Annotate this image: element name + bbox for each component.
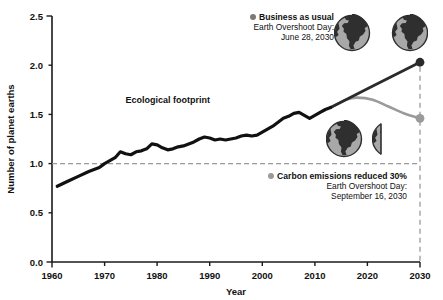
x-tick-label-2010: 2010	[304, 270, 325, 281]
globe-group-two-earths	[334, 14, 428, 56]
x-tick-label-2000: 2000	[252, 270, 273, 281]
x-tick-marks	[52, 262, 420, 268]
legend-marker-dot-business-as-usual	[250, 14, 256, 20]
x-axis-title: Year	[226, 286, 246, 297]
y-tick-label-2-0: 2.0	[30, 60, 43, 71]
y-tick-label-2-5: 2.5	[30, 11, 44, 22]
legend-business-as-usual[interactable]: Business as usual Earth Overshoot Day: J…	[186, 13, 334, 42]
x-tick-label-2030: 2030	[409, 270, 430, 281]
x-tick-label-1990: 1990	[199, 270, 220, 281]
x-tick-label-2020: 2020	[357, 270, 378, 281]
legend-carbon-emissions-reduced[interactable]: Carbon emissions reduced 30% Earth Overs…	[180, 172, 407, 201]
half-globe-icon	[373, 120, 408, 157]
chart-container: 2.5 2.0 1.5 1.0 0.5 0.0 1960 1970 1980 1…	[0, 0, 443, 300]
y-tick-label-1-0: 1.0	[30, 158, 43, 169]
y-tick-label-0-5: 0.5	[30, 207, 44, 218]
endpoint-marker-carbon-reduced	[416, 114, 425, 123]
globe-icon	[335, 14, 370, 50]
x-tick-label-1960: 1960	[41, 270, 62, 281]
y-tick-marks	[47, 16, 53, 262]
x-tick-label-1980: 1980	[147, 270, 168, 281]
globe-group-one-and-half-earths	[326, 120, 408, 162]
legend-business-as-usual-label: Business as usual	[259, 12, 334, 22]
y-axis-title: Number of planet earths	[5, 84, 16, 193]
globe-icon	[327, 120, 362, 157]
legend-carbon-reduced-line2: September 16, 2030	[180, 192, 407, 202]
endpoint-marker-business-as-usual	[416, 58, 425, 67]
y-tick-label-0-0: 0.0	[30, 257, 43, 268]
globe-group-two-earths-svg	[334, 14, 428, 52]
legend-business-as-usual-line2: June 28, 2030	[186, 33, 334, 43]
globe-group-one-and-half-earths-svg	[326, 120, 408, 158]
y-tick-label-1-5: 1.5	[30, 109, 44, 120]
x-tick-label-1970: 1970	[94, 270, 115, 281]
globe-icon	[393, 14, 428, 50]
ecological-footprint-annotation: Ecological footprint	[125, 95, 210, 105]
legend-carbon-reduced-label: Carbon emissions reduced 30%	[277, 171, 407, 181]
legend-marker-dot-carbon-reduced	[268, 173, 274, 179]
